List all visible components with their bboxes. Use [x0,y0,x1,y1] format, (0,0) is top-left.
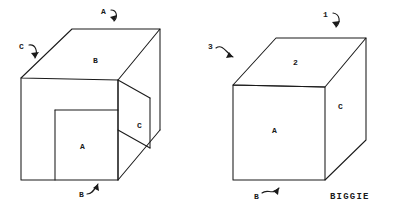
left-callout-label-c: C [19,43,24,51]
right-top-face-label: 2 [293,59,298,67]
drawing-canvas: B A C A C B 2 A C 1 3 B BIGGIE [0,0,395,219]
left-callout-label-a: A [101,8,106,16]
biggie-caption: BIGGIE [330,193,370,202]
left-callout-arrow-c [29,45,39,58]
right-callout-arrow-3 [216,47,233,58]
left-inner-face-label: A [80,143,85,151]
left-callout-label-b: B [79,191,84,199]
left-side-face-label: C [137,122,142,130]
right-front-face-label: A [272,127,277,135]
right-callout-arrow-b [262,188,279,195]
left-callout-arrow-a [110,10,117,21]
right-callout-arrow-1 [332,13,340,27]
right-callout-label-1: 1 [323,11,328,19]
left-callout-arrow-b [87,184,99,194]
right-callout-label-b: B [254,193,259,201]
line-drawing [0,0,395,219]
right-side-face-label: C [338,103,343,111]
left-figure-geometry [21,29,160,180]
right-callout-label-3: 3 [208,43,213,51]
right-figure-geometry [233,38,366,180]
left-top-face-label: B [93,57,98,65]
